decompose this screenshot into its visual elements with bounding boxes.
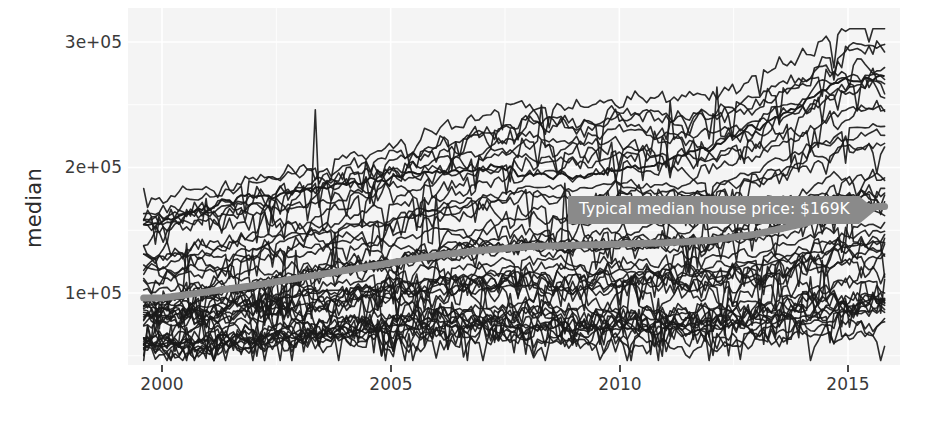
y-tick-label-3e05: 3e+05 (38, 32, 122, 52)
y-tick-label-1e05: 1e+05 (38, 283, 122, 303)
annotation-label: Typical median house price: $169K (579, 202, 850, 218)
plot-canvas (128, 8, 900, 365)
x-tick-mark-2010 (619, 365, 621, 372)
x-tick-label-2010: 2010 (598, 374, 641, 394)
y-axis-ticks: 3e+05 2e+05 1e+05 (30, 0, 122, 422)
x-tick-label-2005: 2005 (369, 374, 412, 394)
annotation-box: Typical median house price: $169K (568, 196, 859, 224)
annotation-callout: Typical median house price: $169K (568, 196, 876, 224)
x-tick-mark-2000 (161, 365, 163, 372)
x-tick-label-2000: 2000 (140, 374, 183, 394)
y-tick-label-2e05: 2e+05 (38, 157, 122, 177)
annotation-arrow-icon (859, 196, 876, 224)
x-tick-label-2015: 2015 (826, 374, 869, 394)
x-tick-mark-2015 (847, 365, 849, 372)
plot-panel (128, 8, 900, 365)
x-tick-mark-2005 (390, 365, 392, 372)
chart-root: median 3e+05 2e+05 1e+05 2000 2005 2010 … (0, 0, 944, 422)
